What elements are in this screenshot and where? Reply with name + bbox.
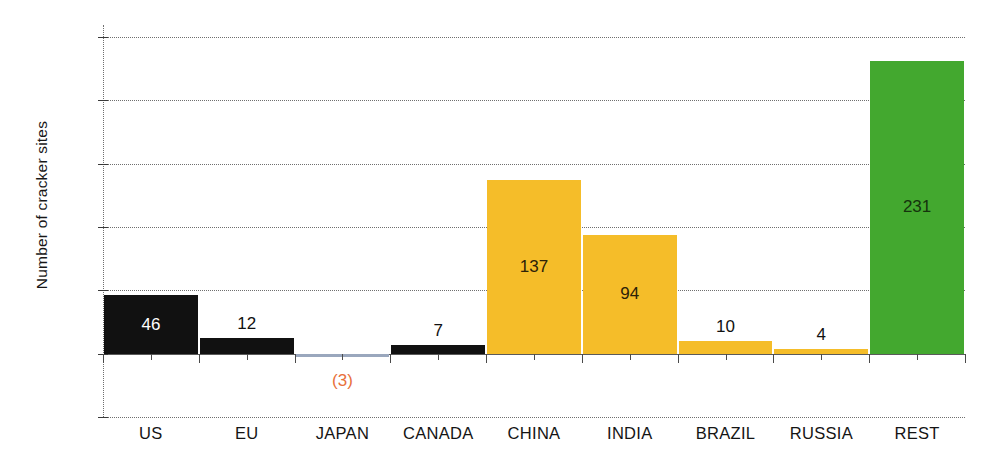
- x-tick-minor-5: [630, 354, 631, 360]
- x-tick-minor-2: [342, 354, 343, 360]
- category-label-eu: EU: [199, 424, 295, 443]
- gridline--50: [103, 417, 965, 418]
- bar-value-label-eu: 12: [199, 315, 295, 332]
- category-label-russia: RUSSIA: [773, 424, 869, 443]
- x-tick-minor-4: [534, 354, 535, 360]
- x-tick-major-7: [773, 354, 774, 363]
- x-tick-minor-3: [438, 354, 439, 360]
- x-tick-major-9: [965, 354, 966, 363]
- x-tick-major-1: [199, 354, 200, 363]
- x-tick-minor-8: [917, 354, 918, 360]
- bar-value-label-brazil: 10: [678, 318, 774, 335]
- bars-group: 4612(3)713794104231: [103, 37, 965, 417]
- bar-value-label-japan: (3): [295, 372, 391, 389]
- bar-chart: Number of cracker sites 25020015010050–(…: [0, 0, 983, 469]
- x-tick-major-4: [486, 354, 487, 363]
- bar-eu[interactable]: [200, 338, 294, 353]
- x-tick-major-2: [295, 354, 296, 363]
- x-tick-major-8: [869, 354, 870, 363]
- category-label-india: INDIA: [582, 424, 678, 443]
- x-axis-category-labels: USEUJAPANCANADACHINAINDIABRAZILRUSSIARES…: [103, 424, 965, 454]
- category-label-brazil: BRAZIL: [678, 424, 774, 443]
- bar-canada[interactable]: [391, 345, 485, 354]
- category-label-china: CHINA: [486, 424, 582, 443]
- bar-value-label-canada: 7: [390, 322, 486, 339]
- bar-value-label-china: 137: [486, 258, 582, 275]
- category-label-rest: REST: [869, 424, 965, 443]
- category-label-japan: JAPAN: [295, 424, 391, 443]
- y-axis-title: Number of cracker sites: [33, 75, 51, 335]
- bar-value-label-india: 94: [582, 285, 678, 302]
- x-tick-major-5: [582, 354, 583, 363]
- bar-brazil[interactable]: [679, 341, 773, 354]
- x-tick-major-0: [103, 354, 104, 363]
- x-tick-major-6: [678, 354, 679, 363]
- category-label-us: US: [103, 424, 199, 443]
- category-label-canada: CANADA: [390, 424, 486, 443]
- plot-area: 25020015010050–(50) 4612(3)713794104231: [103, 37, 965, 417]
- x-tick-minor-0: [151, 354, 152, 360]
- x-tick-minor-6: [726, 354, 727, 360]
- y-tick-mark--50: [98, 417, 108, 418]
- x-tick-minor-7: [821, 354, 822, 360]
- bar-value-label-us: 46: [103, 316, 199, 333]
- bar-value-label-rest: 231: [869, 198, 965, 215]
- x-tick-major-3: [390, 354, 391, 363]
- bar-value-label-russia: 4: [773, 326, 869, 343]
- x-tick-minor-1: [247, 354, 248, 360]
